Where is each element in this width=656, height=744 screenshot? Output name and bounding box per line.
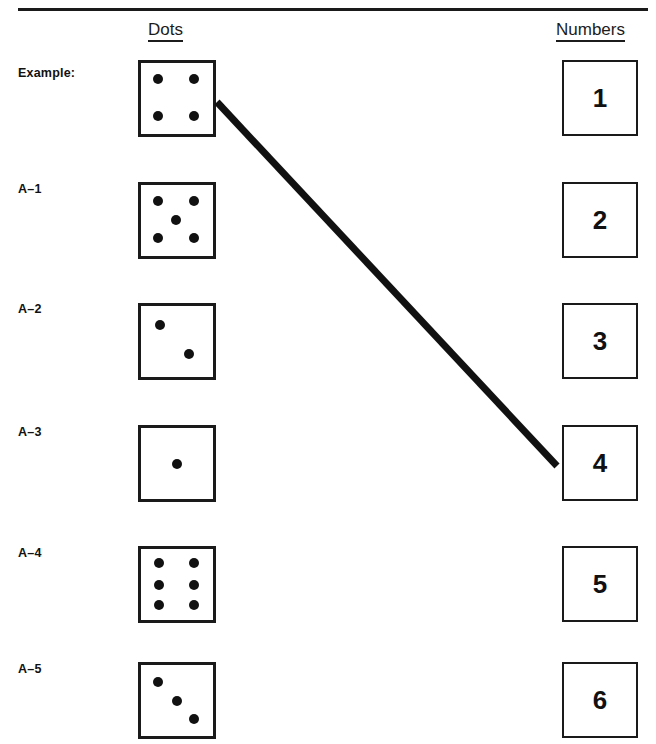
row-label-a5: A–5 — [18, 662, 42, 676]
row-label-example: Example: — [18, 66, 75, 80]
dot-box-a5[interactable] — [138, 662, 216, 739]
row-label-a1: A–1 — [18, 182, 42, 196]
dot-box-a3[interactable] — [138, 425, 216, 502]
dot-glyph-icon — [172, 459, 182, 469]
row-label-a3: A–3 — [18, 425, 42, 439]
row-label-a2: A–2 — [18, 302, 42, 316]
dot-glyph-icon — [189, 714, 199, 724]
column-header-dots: Dots — [148, 20, 183, 40]
row-label-a4: A–4 — [18, 546, 42, 560]
dot-glyph-icon — [153, 74, 163, 84]
dot-box-example[interactable] — [138, 60, 216, 137]
number-box-label: 1 — [593, 85, 607, 111]
dot-glyph-icon — [172, 696, 182, 706]
dot-box-a1[interactable] — [138, 182, 216, 259]
number-box-3[interactable]: 3 — [562, 303, 638, 379]
dot-glyph-icon — [184, 349, 194, 359]
number-box-label: 2 — [593, 207, 607, 233]
dot-glyph-icon — [155, 320, 165, 330]
column-header-numbers-label: Numbers — [556, 20, 625, 42]
dot-glyph-icon — [189, 600, 199, 610]
dot-glyph-icon — [154, 558, 164, 568]
number-box-label: 3 — [593, 328, 607, 354]
dot-glyph-icon — [153, 233, 163, 243]
number-box-label: 4 — [593, 450, 607, 476]
number-box-5[interactable]: 5 — [562, 546, 638, 622]
number-box-1[interactable]: 1 — [562, 60, 638, 136]
dot-glyph-icon — [189, 74, 199, 84]
answer-connector-layer — [0, 0, 656, 744]
number-box-label: 6 — [593, 687, 607, 713]
dot-glyph-icon — [171, 215, 181, 225]
number-box-6[interactable]: 6 — [562, 662, 638, 738]
number-box-2[interactable]: 2 — [562, 182, 638, 258]
dot-box-a2[interactable] — [138, 303, 216, 380]
dot-glyph-icon — [189, 196, 199, 206]
column-header-dots-label: Dots — [148, 20, 183, 42]
dot-glyph-icon — [189, 111, 199, 121]
number-box-label: 5 — [593, 571, 607, 597]
answer-connector-line[interactable] — [217, 102, 557, 466]
dot-glyph-icon — [154, 580, 164, 590]
dot-glyph-icon — [153, 196, 163, 206]
dot-glyph-icon — [153, 111, 163, 121]
dot-glyph-icon — [153, 677, 163, 687]
number-box-4[interactable]: 4 — [562, 425, 638, 501]
column-header-numbers: Numbers — [556, 20, 625, 40]
dot-glyph-icon — [189, 580, 199, 590]
dot-glyph-icon — [189, 233, 199, 243]
dot-glyph-icon — [189, 558, 199, 568]
header-divider-rule — [18, 8, 648, 11]
worksheet-page: Dots Numbers Example:A–1A–2A–3A–4A–5 123… — [0, 0, 656, 744]
dot-box-a4[interactable] — [138, 546, 216, 623]
dot-glyph-icon — [154, 600, 164, 610]
